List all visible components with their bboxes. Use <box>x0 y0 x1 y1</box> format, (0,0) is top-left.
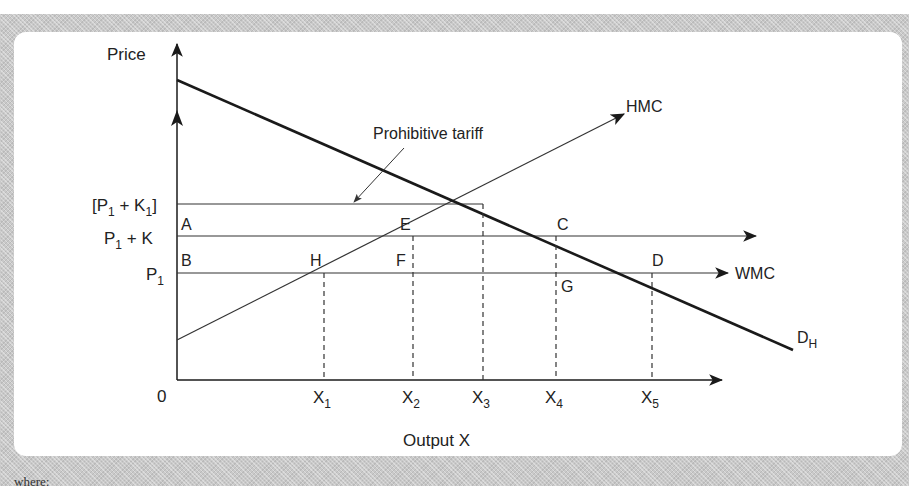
tariff-diagram: Price 0 Output X [P1 + K1] P1 + K P1 X1 … <box>0 0 909 486</box>
x-tick-x1: X1 <box>313 388 331 411</box>
point-label-b: B <box>181 252 192 269</box>
point-label-c: C <box>557 216 569 233</box>
footer-text: where: <box>14 474 49 486</box>
y-axis-label: Price <box>107 45 146 64</box>
price-label-p1-k1: [P1 + K1] <box>92 196 157 219</box>
demand-curve <box>177 80 793 350</box>
point-label-e: E <box>400 216 411 233</box>
x-tick-x2: X2 <box>402 388 420 411</box>
demand-label: DH <box>797 329 817 351</box>
price-label-p1-k: P1 + K <box>104 229 153 252</box>
hmc-label: HMC <box>626 98 662 115</box>
prohibitive-tariff-annotation: Prohibitive tariff <box>373 125 484 142</box>
dashed-guides <box>324 204 652 380</box>
point-label-d: D <box>652 252 664 269</box>
wmc-label: WMC <box>735 265 775 282</box>
x-tick-x3: X3 <box>472 388 490 411</box>
point-label-h: H <box>310 252 322 269</box>
point-label-a: A <box>181 216 192 233</box>
point-label-f: F <box>396 252 406 269</box>
x-tick-x4: X4 <box>545 388 563 411</box>
origin-label: 0 <box>157 387 166 406</box>
price-label-p1: P1 <box>146 265 164 288</box>
x-tick-x5: X5 <box>641 388 659 411</box>
point-label-g: G <box>561 278 573 295</box>
x-axis-label: Output X <box>403 431 470 450</box>
